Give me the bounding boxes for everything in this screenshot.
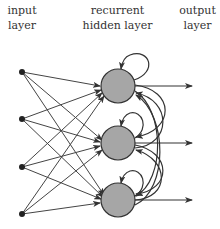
hidden-nodes xyxy=(101,69,135,217)
input-node xyxy=(19,116,25,122)
hidden-node xyxy=(101,69,135,103)
hidden-node xyxy=(101,126,135,160)
rnn-diagram xyxy=(0,0,220,229)
input-node xyxy=(19,69,25,75)
input-hidden-edges xyxy=(22,72,104,214)
recurrent-edges xyxy=(135,85,165,205)
input-nodes xyxy=(19,69,25,217)
hidden-node xyxy=(101,183,135,217)
input-node xyxy=(19,164,25,170)
input-node xyxy=(19,211,25,217)
